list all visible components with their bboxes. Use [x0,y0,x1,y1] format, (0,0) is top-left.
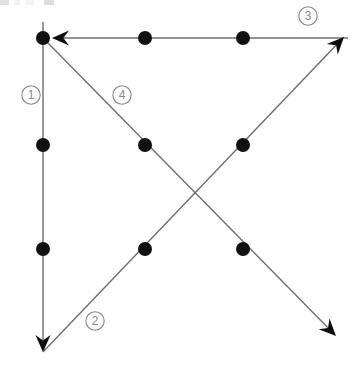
edges-layer [43,22,348,352]
path-labels-layer: 1234 [22,7,317,330]
node-r0-c1[interactable] [138,31,152,45]
node-r2-c2[interactable] [236,242,250,256]
path-label-3: 3 [299,7,317,25]
node-r2-c0[interactable] [36,242,50,256]
path-4-diagonal-down-right-line [47,42,328,328]
path-label-3-text: 3 [305,9,312,23]
path-label-2: 2 [86,312,104,330]
path-label-1-text: 1 [28,88,35,102]
node-r1-c2[interactable] [236,138,250,152]
path-label-2-text: 2 [92,314,99,328]
node-r0-c2[interactable] [236,31,250,45]
node-r1-c1[interactable] [138,138,152,152]
nodes-layer [36,31,250,256]
path-label-4: 4 [113,86,131,104]
node-r2-c1[interactable] [138,242,152,256]
path-label-1: 1 [22,86,40,104]
node-r0-c0[interactable] [36,31,50,45]
node-r1-c0[interactable] [36,138,50,152]
arrowheads-layer [35,30,344,352]
path-label-4-text: 4 [119,88,126,102]
path-diagram-svg: 1234 [0,0,357,370]
path-2-diagonal-up-right-line [43,45,336,352]
diagram-canvas: 1234 [0,0,357,370]
